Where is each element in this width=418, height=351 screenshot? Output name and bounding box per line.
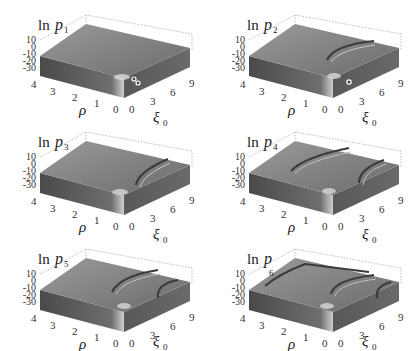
xi-tick: 6: [170, 203, 176, 215]
zlabel-ln: ln: [247, 17, 259, 33]
surface-plot-6: ln p 6 10 0 -10 -20 -30 4 3 2 1 0 0 3 6 …: [209, 234, 418, 351]
rho-tick: 2: [281, 325, 287, 337]
ztick: -30: [232, 179, 245, 190]
xi-tick: 0: [129, 103, 135, 115]
xi-tick: 9: [189, 311, 195, 323]
rho-tick: 0: [322, 337, 328, 349]
rho-tick: 3: [50, 85, 56, 97]
surface-plot-3: ln p 3 10 0 -10 -20 -30 4 3 2 1 0 0 3 6 …: [0, 117, 209, 234]
rho-tick: 4: [31, 78, 37, 90]
rho-tick: 4: [240, 312, 246, 324]
zlabel-p: p: [54, 250, 63, 268]
rho-axis-label: ρ: [78, 336, 86, 351]
rho-axis-label: ρ: [287, 219, 295, 235]
xi-tick: 3: [150, 95, 156, 107]
rho-tick: 0: [322, 103, 328, 115]
rho-tick: 3: [259, 319, 265, 331]
xi-tick: 3: [359, 95, 365, 107]
ztick: -30: [23, 296, 36, 307]
panel-6: ln p 6 10 0 -10 -20 -30 4 3 2 1 0 0 3 6 …: [209, 234, 418, 351]
zlabel-subscript: 4: [273, 142, 278, 152]
xi-tick: 0: [129, 337, 135, 349]
rho-tick: 4: [31, 195, 37, 207]
xi-subscript: 0: [163, 342, 168, 351]
rho-tick: 0: [113, 220, 119, 232]
rho-axis-label: ρ: [287, 102, 295, 118]
figure-grid: ln p 1 10 0 -10 -20 -30 4 3 2 1 0 0 3 6 …: [0, 0, 418, 351]
xi-tick: 0: [338, 337, 344, 349]
zlabel-ln: ln: [38, 134, 50, 150]
xi-axis-label: ξ: [362, 333, 369, 349]
rho-tick: 0: [322, 220, 328, 232]
rho-tick: 4: [240, 78, 246, 90]
surface-plot-5: ln p 5 10 0 -10 -20 -30 4 3 2 1 0 0 3 6 …: [0, 234, 209, 351]
xi-tick: 0: [338, 103, 344, 115]
rho-axis-label: ρ: [78, 102, 86, 118]
surface-plot-4: ln p 4 10 0 -10 -20 -30 4 3 2 1 0 0 3 6 …: [209, 117, 418, 234]
zlabel-subscript: 6: [269, 268, 274, 278]
xi-tick: 0: [129, 220, 135, 232]
xi-tick: 3: [359, 212, 365, 224]
zlabel-p: p: [263, 250, 272, 268]
rho-tick: 1: [94, 331, 100, 343]
xi-axis-label: ξ: [153, 333, 160, 349]
xi-tick: 6: [379, 203, 385, 215]
xi-tick: 9: [189, 194, 195, 206]
panel-3: ln p 3 10 0 -10 -20 -30 4 3 2 1 0 0 3 6 …: [0, 117, 209, 234]
rho-tick: 3: [50, 202, 56, 214]
xi-tick: 6: [379, 320, 385, 332]
xi-tick: 9: [398, 194, 404, 206]
rho-tick: 3: [259, 85, 265, 97]
rho-tick: 1: [303, 214, 309, 226]
surface-plot-2: ln p 2 10 0 -10 -20 -30 4 3 2 1 0 0 3 6 …: [209, 0, 418, 117]
xi-tick: 9: [398, 77, 404, 89]
xi-tick: 6: [379, 86, 385, 98]
zlabel-p: p: [263, 133, 272, 151]
rho-tick: 1: [303, 97, 309, 109]
xi-tick: 6: [170, 320, 176, 332]
rho-tick: 2: [72, 208, 78, 220]
zlabel-subscript: 5: [64, 259, 69, 269]
surface-plot-1: ln p 1 10 0 -10 -20 -30 4 3 2 1 0 0 3 6 …: [0, 0, 209, 117]
xi-tick: 9: [189, 77, 195, 89]
rho-tick: 4: [31, 312, 37, 324]
rho-tick: 1: [303, 331, 309, 343]
zlabel-p: p: [54, 133, 63, 151]
xi-subscript: 0: [372, 342, 377, 351]
zlabel-subscript: 2: [273, 25, 278, 35]
zlabel-subscript: 3: [64, 142, 69, 152]
xi-tick: 6: [170, 86, 176, 98]
xi-tick: 9: [398, 311, 404, 323]
panel-4: ln p 4 10 0 -10 -20 -30 4 3 2 1 0 0 3 6 …: [209, 117, 418, 234]
ztick: -30: [232, 62, 245, 73]
rho-tick: 1: [94, 97, 100, 109]
rho-tick: 2: [281, 208, 287, 220]
panel-1: ln p 1 10 0 -10 -20 -30 4 3 2 1 0 0 3 6 …: [0, 0, 209, 117]
zlabel-ln: ln: [247, 134, 259, 150]
zlabel-ln: ln: [38, 251, 50, 267]
rho-tick: 2: [281, 91, 287, 103]
panel-2: ln p 2 10 0 -10 -20 -30 4 3 2 1 0 0 3 6 …: [209, 0, 418, 117]
rho-tick: 3: [50, 319, 56, 331]
zlabel-p: p: [54, 16, 63, 34]
zlabel-subscript: 1: [64, 25, 69, 35]
rho-tick: 0: [113, 337, 119, 349]
xi-tick: 0: [338, 220, 344, 232]
rho-axis-label: ρ: [78, 219, 86, 235]
panel-5: ln p 5 10 0 -10 -20 -30 4 3 2 1 0 0 3 6 …: [0, 234, 209, 351]
ztick: -30: [232, 296, 245, 307]
xi-tick: 3: [150, 212, 156, 224]
rho-axis-label: ρ: [287, 336, 295, 351]
rho-tick: 3: [259, 202, 265, 214]
rho-tick: 0: [113, 103, 119, 115]
rho-tick: 2: [72, 91, 78, 103]
zlabel-p: p: [263, 16, 272, 34]
ztick: -30: [23, 62, 36, 73]
ztick: -30: [23, 179, 36, 190]
rho-tick: 1: [94, 214, 100, 226]
rho-tick: 2: [72, 325, 78, 337]
zlabel-ln: ln: [38, 17, 50, 33]
rho-tick: 4: [240, 195, 246, 207]
zlabel-ln: ln: [247, 251, 259, 267]
